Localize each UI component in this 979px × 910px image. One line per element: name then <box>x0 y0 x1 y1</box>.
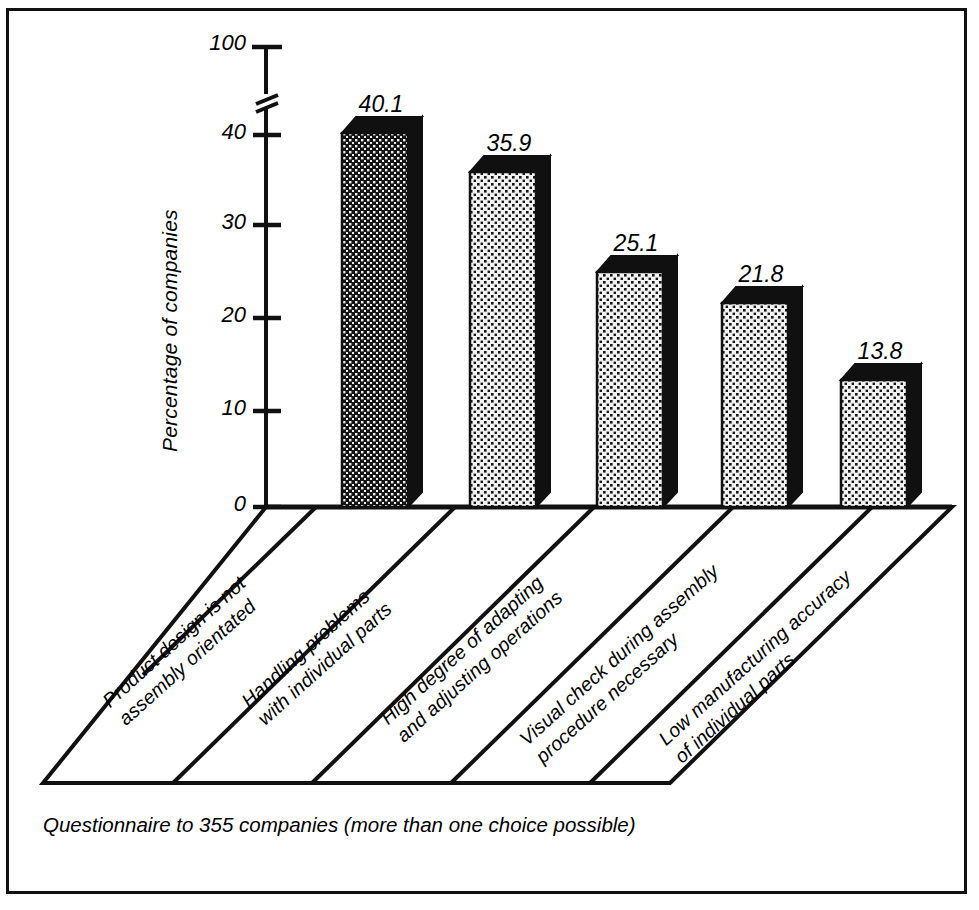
bar-1-side <box>408 117 422 507</box>
bar-1-front <box>342 133 408 507</box>
bar-2 <box>470 156 550 507</box>
bar-2-front <box>470 172 536 507</box>
y-tick-label-100: 100 <box>190 30 246 56</box>
bar-5-side <box>907 364 921 507</box>
y-tick-label-10: 10 <box>190 395 246 421</box>
bar-value-label-1: 40.1 <box>336 91 426 118</box>
bar-value-label-2: 35.9 <box>464 130 554 157</box>
bar-value-label-5: 13.8 <box>835 338 925 365</box>
bar-3-front <box>597 272 663 507</box>
y-tick-label-20: 20 <box>190 302 246 328</box>
bar-value-label-3: 25.1 <box>591 230 681 257</box>
bar-4-side <box>788 287 802 507</box>
bar-5 <box>841 364 921 507</box>
y-axis-label: Percentage of companies <box>158 209 182 452</box>
chart-caption: Questionnaire to 355 companies (more tha… <box>43 813 636 837</box>
bar-2-side <box>536 156 550 507</box>
y-tick-label-30: 30 <box>190 209 246 235</box>
bar-4-front <box>722 303 788 507</box>
bar-1 <box>342 117 422 507</box>
bar-3 <box>597 256 677 507</box>
bar-value-label-4: 21.8 <box>716 261 806 288</box>
y-tick-label-40: 40 <box>190 119 246 145</box>
y-tick-label-0: 0 <box>190 491 246 517</box>
bar-3-side <box>663 256 677 507</box>
bar-4 <box>722 287 802 507</box>
bar-5-front <box>841 380 907 507</box>
axis-break-icon <box>256 95 278 112</box>
